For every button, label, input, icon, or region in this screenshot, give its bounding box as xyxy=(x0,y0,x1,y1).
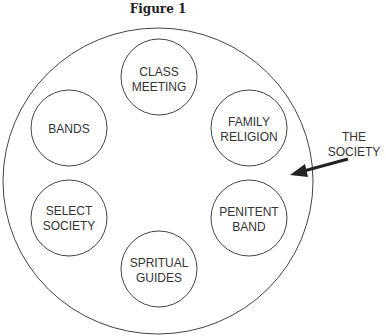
group-label: MEETING xyxy=(132,80,187,94)
group-select-society: SELECT SOCIETY xyxy=(31,180,107,256)
group-bands: BANDS xyxy=(31,90,107,166)
group-spritual-guides: SPRITUAL GUIDES xyxy=(121,231,197,307)
group-label: GUIDES xyxy=(136,271,182,285)
group-label: FAMILY xyxy=(228,115,270,129)
society-label: THE xyxy=(342,130,366,144)
group-label: BANDS xyxy=(48,122,89,136)
society-diagram: CLASS MEETING BANDS FAMILY RELIGION SELE… xyxy=(0,0,386,336)
group-label: RELIGION xyxy=(220,130,277,144)
group-label: PENITENT xyxy=(219,205,279,219)
arrow-icon xyxy=(290,159,348,177)
group-label: SELECT xyxy=(46,204,93,218)
group-label: BAND xyxy=(232,220,266,234)
group-family-religion: FAMILY RELIGION xyxy=(211,90,287,166)
group-label: CLASS xyxy=(139,65,178,79)
group-class-meeting: CLASS MEETING xyxy=(121,39,197,115)
group-label: SOCIETY xyxy=(43,219,96,233)
society-label: SOCIETY xyxy=(328,145,381,159)
group-penitent-band: PENITENT BAND xyxy=(211,180,287,256)
group-label: SPRITUAL xyxy=(130,256,189,270)
